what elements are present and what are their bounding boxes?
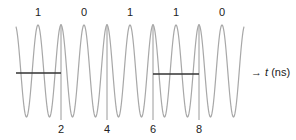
bit-label: 1 xyxy=(173,6,179,18)
bit-label: 1 xyxy=(35,6,41,18)
time-tick-label: 2 xyxy=(58,123,64,135)
arrow-right-icon: → xyxy=(251,66,262,78)
time-tick-label: 4 xyxy=(104,123,110,135)
bit-label: 1 xyxy=(127,6,133,18)
bit-label: 0 xyxy=(219,6,225,18)
time-tick-label: 8 xyxy=(196,123,202,135)
time-axis-label: →t (ns) xyxy=(251,66,290,78)
time-tick-label: 6 xyxy=(150,123,156,135)
axis-unit: (ns) xyxy=(271,66,290,78)
carrier-wave xyxy=(16,25,244,117)
carrier-waveform-diagram: 10110 2468 →t (ns) xyxy=(0,0,296,140)
axis-variable: t xyxy=(265,66,268,78)
bit-label: 0 xyxy=(81,6,87,18)
